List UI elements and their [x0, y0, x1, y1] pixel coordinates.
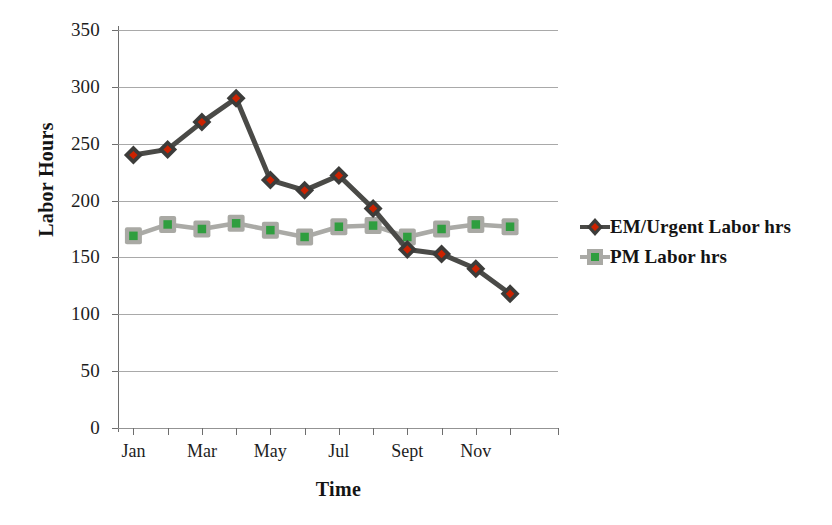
x-axis-tick — [373, 428, 374, 435]
x-axis-tick — [407, 428, 408, 435]
data-point[interactable] — [365, 217, 382, 234]
y-axis-tick-label: 100 — [36, 304, 100, 323]
data-point[interactable] — [467, 216, 484, 233]
data-point[interactable] — [193, 221, 210, 238]
chart-container: Labor Hours 050100150200250300350 JanMar… — [0, 0, 832, 525]
data-point[interactable] — [261, 171, 280, 190]
x-axis-title: Time — [118, 478, 559, 501]
x-axis-tick — [339, 428, 340, 435]
x-axis-tick — [510, 428, 511, 435]
x-axis-tick — [270, 428, 271, 435]
x-axis-tick — [476, 428, 477, 435]
series-line-em-urgent-labor-hrs — [133, 98, 510, 294]
data-point[interactable] — [124, 146, 143, 165]
x-axis-tick-label: Jan — [98, 441, 168, 461]
series-em-urgent-labor-hrs — [124, 89, 520, 304]
data-point[interactable] — [262, 222, 279, 239]
legend-label-em-urgent: EM/Urgent Labor hrs — [610, 216, 791, 238]
data-point[interactable] — [330, 218, 347, 235]
x-axis-tick-label: Nov — [441, 441, 511, 461]
legend-item-pm[interactable]: PM Labor hrs — [580, 242, 830, 272]
x-axis-tick-label: Sept — [372, 441, 442, 461]
y-axis-tick-label: 50 — [36, 361, 100, 380]
data-point[interactable] — [159, 216, 176, 233]
x-axis-tick — [442, 428, 443, 435]
series-line-pm-labor-hrs — [133, 223, 510, 237]
y-axis-tick-label: 300 — [36, 77, 100, 96]
data-point[interactable] — [432, 245, 451, 264]
x-axis-tick — [558, 428, 559, 435]
y-axis-tick-label: 150 — [36, 247, 100, 266]
series-plot — [118, 30, 558, 428]
x-axis-tick — [305, 428, 306, 435]
x-axis-tick — [236, 428, 237, 435]
x-axis-tick — [168, 428, 169, 435]
legend-diamond-marker-icon — [580, 216, 610, 238]
data-point[interactable] — [296, 228, 313, 245]
x-axis-tick — [202, 428, 203, 435]
x-axis-tick-label: May — [235, 441, 305, 461]
data-point[interactable] — [228, 215, 245, 232]
x-axis-tick-label: Jul — [304, 441, 374, 461]
legend-label-pm: PM Labor hrs — [610, 246, 727, 268]
data-point[interactable] — [295, 181, 314, 200]
plot-area — [118, 30, 558, 428]
chart-legend: EM/Urgent Labor hrs PM Labor hrs — [580, 212, 830, 272]
y-axis-tick-label: 250 — [36, 134, 100, 153]
y-axis-title: Labor Hours — [35, 100, 58, 260]
y-axis-tick-label: 0 — [36, 418, 100, 437]
x-axis-tick-label: Mar — [167, 441, 237, 461]
series-pm-labor-hrs — [125, 215, 519, 246]
y-axis-tick-label: 200 — [36, 191, 100, 210]
data-point[interactable] — [125, 227, 142, 244]
legend-item-em-urgent[interactable]: EM/Urgent Labor hrs — [580, 212, 830, 242]
data-point[interactable] — [433, 221, 450, 238]
legend-square-marker-icon — [580, 246, 610, 268]
x-axis-tick — [133, 428, 134, 435]
data-point[interactable] — [502, 218, 519, 235]
y-axis-tick-label: 350 — [36, 20, 100, 39]
